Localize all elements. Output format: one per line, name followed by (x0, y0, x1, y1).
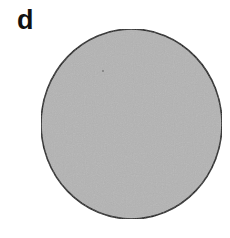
circle-figure (0, 0, 230, 238)
circle-shape (41, 29, 222, 219)
speck-mark (102, 70, 104, 72)
